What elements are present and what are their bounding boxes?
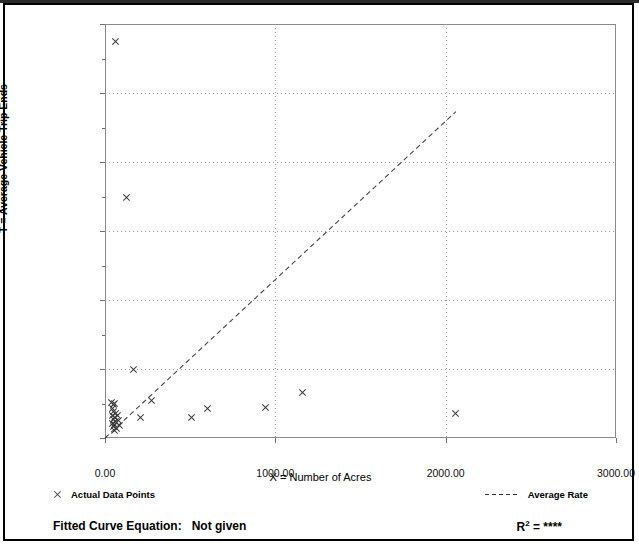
legend-item-average-rate: Average Rate <box>485 489 588 500</box>
r-squared-equals: = <box>530 520 544 534</box>
data-point <box>136 413 145 422</box>
chart-footer: Fitted Curve Equation: Not given R2 = **… <box>5 519 636 545</box>
data-point <box>115 421 124 430</box>
plot-area-wrapper: T = Average Vehicle Trip Ends 01,0002,00… <box>5 5 636 445</box>
x-axis-title: X = Number of Acres <box>5 471 636 483</box>
equation-value: Not given <box>192 519 247 533</box>
data-point <box>298 388 307 397</box>
equation-label: Fitted Curve Equation: <box>53 519 182 533</box>
r-squared-prefix: R <box>517 520 526 534</box>
x-tick-major <box>275 438 276 443</box>
r-squared-stars: **** <box>543 520 562 534</box>
chart-legend: Actual Data Points Average Rate <box>5 489 636 513</box>
data-point <box>147 396 156 405</box>
plot-area: 01,0002,0003,0004,0005,0006,000 0.001000… <box>105 24 616 438</box>
fitted-curve-equation: Fitted Curve Equation: Not given <box>53 519 246 533</box>
y-axis-title: T = Average Vehicle Trip Ends <box>0 84 9 233</box>
legend-label-average-rate: Average Rate <box>528 489 588 500</box>
legend-item-data-points: Actual Data Points <box>53 489 155 500</box>
data-point <box>111 37 120 46</box>
average-rate-trendline <box>105 24 616 438</box>
x-marker-icon <box>53 490 62 499</box>
dashed-line-icon <box>485 494 519 495</box>
data-point <box>187 413 196 422</box>
data-point <box>122 193 131 202</box>
data-point <box>203 404 212 413</box>
data-point <box>129 365 138 374</box>
x-tick-major <box>105 438 106 443</box>
r-squared-value: R2 = **** <box>517 519 563 534</box>
data-point <box>261 403 270 412</box>
chart-frame: T = Average Vehicle Trip Ends 01,0002,00… <box>3 3 634 541</box>
x-tick-major <box>616 438 617 443</box>
legend-label-data-points: Actual Data Points <box>71 489 155 500</box>
x-tick-major <box>446 438 447 443</box>
data-point <box>451 409 460 418</box>
